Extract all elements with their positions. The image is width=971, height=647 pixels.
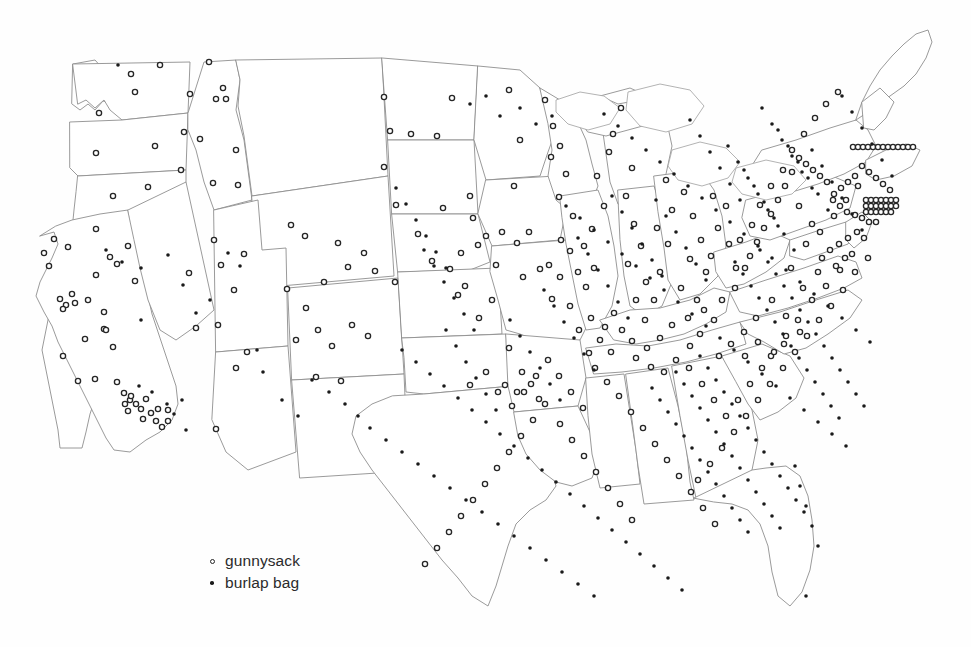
data-point xyxy=(180,398,184,402)
data-point xyxy=(760,106,764,110)
data-point xyxy=(509,403,514,408)
data-point xyxy=(643,279,648,284)
data-point xyxy=(631,221,636,226)
data-point xyxy=(840,287,845,292)
data-point xyxy=(843,197,848,202)
data-point xyxy=(733,260,737,264)
data-point xyxy=(133,401,138,406)
data-point xyxy=(415,231,420,236)
data-point xyxy=(730,506,734,510)
data-point xyxy=(719,445,724,450)
data-point xyxy=(644,345,649,350)
data-point xyxy=(506,345,511,350)
data-point xyxy=(782,183,787,188)
data-point xyxy=(690,312,694,316)
data-point xyxy=(690,394,694,398)
data-point xyxy=(470,408,474,412)
data-point xyxy=(809,297,814,302)
data-point xyxy=(789,169,794,174)
data-point xyxy=(548,382,552,386)
data-point xyxy=(826,208,830,212)
data-point xyxy=(714,208,718,212)
data-point xyxy=(404,202,408,206)
data-point xyxy=(432,264,436,268)
data-point xyxy=(530,417,535,422)
data-point xyxy=(757,202,762,207)
data-point xyxy=(602,112,606,116)
data-point xyxy=(393,202,398,207)
data-point xyxy=(860,228,864,232)
data-point xyxy=(850,110,854,114)
data-point xyxy=(866,169,871,174)
data-point xyxy=(483,369,488,374)
data-point xyxy=(755,397,760,402)
data-point xyxy=(835,89,840,94)
data-point xyxy=(414,360,418,364)
data-point xyxy=(749,222,754,227)
data-point xyxy=(210,180,215,185)
legend-label-gunnysack: gunnysack xyxy=(221,552,300,570)
data-point xyxy=(528,350,532,354)
data-point xyxy=(518,433,523,438)
data-point xyxy=(462,312,466,316)
data-point xyxy=(792,248,796,252)
data-point xyxy=(873,219,878,224)
data-point xyxy=(824,179,829,184)
legend: gunnysack burlap bag xyxy=(203,550,383,594)
data-point xyxy=(125,243,130,248)
data-point xyxy=(741,329,746,334)
data-point xyxy=(802,510,806,514)
data-point xyxy=(85,297,90,302)
data-point xyxy=(880,158,884,162)
data-point xyxy=(814,332,818,336)
data-point xyxy=(775,197,780,202)
data-point xyxy=(468,102,472,106)
data-point xyxy=(475,242,480,247)
data-point xyxy=(756,244,760,248)
data-point xyxy=(782,232,786,236)
data-point xyxy=(208,298,212,302)
data-point xyxy=(442,280,446,284)
data-point xyxy=(893,197,898,202)
data-point xyxy=(859,163,864,168)
data-point xyxy=(576,327,581,332)
data-point xyxy=(793,464,797,468)
data-point xyxy=(442,384,446,388)
data-point xyxy=(801,131,806,136)
data-point xyxy=(759,365,764,370)
data-point xyxy=(549,296,554,301)
data-point xyxy=(865,255,870,260)
data-point xyxy=(722,390,726,394)
data-point xyxy=(852,173,857,178)
data-point xyxy=(365,333,370,338)
data-point xyxy=(638,552,642,556)
data-point xyxy=(776,128,780,132)
data-point xyxy=(852,269,857,274)
data-point xyxy=(544,558,548,562)
data-point xyxy=(810,167,815,172)
data-point xyxy=(767,381,772,386)
data-point xyxy=(774,384,778,388)
data-point xyxy=(722,494,726,498)
data-point xyxy=(778,474,782,478)
open-circle-marker-icon xyxy=(203,552,221,570)
data-point xyxy=(830,432,834,436)
data-point xyxy=(657,335,662,340)
data-point xyxy=(838,185,843,190)
data-point xyxy=(293,337,298,342)
data-point xyxy=(96,110,101,115)
data-point xyxy=(813,380,817,384)
data-point xyxy=(489,297,494,302)
data-point xyxy=(644,148,648,152)
data-point xyxy=(770,122,774,126)
data-point xyxy=(728,182,732,186)
data-point xyxy=(506,449,511,454)
data-point xyxy=(372,268,377,273)
data-point xyxy=(456,396,460,400)
data-point xyxy=(817,173,822,178)
data-point xyxy=(829,404,833,408)
data-point xyxy=(596,268,600,272)
data-point xyxy=(422,561,427,566)
data-point xyxy=(686,365,691,370)
data-point xyxy=(121,390,126,395)
